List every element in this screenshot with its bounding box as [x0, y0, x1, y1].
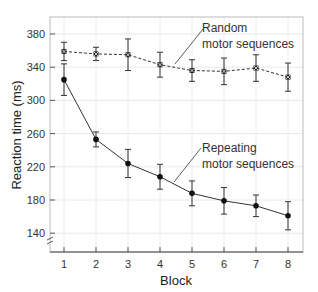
y-axis-label: Reaction time (ms): [9, 80, 24, 189]
grid: [50, 17, 303, 252]
y-tick-label: 340: [27, 61, 45, 73]
x-tick-label: 4: [157, 258, 163, 270]
data-point: [221, 198, 227, 204]
y-tick-label: 300: [27, 94, 45, 106]
data-point: [125, 161, 131, 167]
annotation-repeating: motor sequences: [202, 157, 294, 171]
data-point: [157, 174, 163, 180]
data-point: [285, 213, 291, 219]
data-point: [61, 77, 67, 83]
x-tick-label: 5: [189, 258, 195, 270]
data-point: [93, 137, 99, 143]
x-tick-label: 8: [285, 258, 291, 270]
x-tick-label: 7: [253, 258, 259, 270]
y-tick-label: 260: [27, 128, 45, 140]
x-tick-label: 6: [221, 258, 227, 270]
y-tick-label: 380: [27, 28, 45, 40]
x-tick-label: 3: [125, 258, 131, 270]
y-tick-label: 220: [27, 161, 45, 173]
x-tick-label: 1: [61, 258, 67, 270]
plot-frame: [50, 17, 303, 252]
reaction-time-chart: 14018022026030034038012345678 Randommoto…: [0, 0, 318, 292]
annotation-repeating: Repeating: [202, 141, 257, 155]
y-tick-label: 180: [27, 194, 45, 206]
data-point: [253, 203, 259, 209]
data-point: [189, 191, 195, 197]
annotation-random: Random: [202, 21, 247, 35]
x-tick-label: 2: [93, 258, 99, 270]
x-axis-label: Block: [160, 273, 192, 288]
y-tick-label: 140: [27, 227, 45, 239]
annotation-random: motor sequences: [202, 37, 294, 51]
